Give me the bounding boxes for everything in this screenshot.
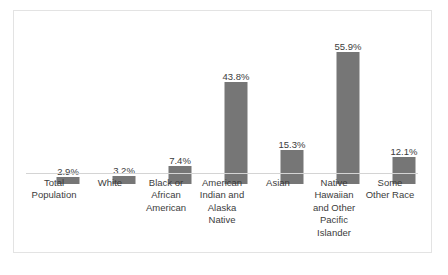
category-label-line: Islander xyxy=(306,227,362,239)
category-label-line: Total xyxy=(26,177,82,189)
bar-chart: 2.9%3.2%7.4%43.8%15.3%55.9%12.1% TotalPo… xyxy=(0,0,448,275)
bar-value-label: 12.1% xyxy=(391,146,418,157)
bar-value-label: 55.9% xyxy=(335,41,362,52)
category-label-line: Other Race xyxy=(362,189,418,201)
bar-value-label: 15.3% xyxy=(279,139,306,150)
category-label: TotalPopulation xyxy=(26,177,82,202)
bar-slot: 12.1% xyxy=(376,25,432,184)
category-label-line: Alaska xyxy=(194,202,250,214)
bar[interactable] xyxy=(225,82,248,184)
category-label-line: Population xyxy=(26,189,82,201)
category-label-line: Asian xyxy=(250,177,306,189)
category-label: Black orAfricanAmerican xyxy=(138,177,194,214)
category-label-line: Pacific xyxy=(306,214,362,226)
bar-slot: 7.4% xyxy=(152,25,208,184)
bar[interactable] xyxy=(337,52,360,184)
category-label-line: African xyxy=(138,189,194,201)
category-label-line: Some xyxy=(362,177,418,189)
bar-slot: 15.3% xyxy=(264,25,320,184)
category-label: AmericanIndian andAlaskaNative xyxy=(194,177,250,227)
category-label: NativeHawaiianand OtherPacificIslander xyxy=(306,177,362,239)
category-label: Asian xyxy=(250,177,306,189)
bar-slot: 3.2% xyxy=(96,25,152,184)
bar-value-label: 2.9% xyxy=(57,166,79,177)
bar-slot: 2.9% xyxy=(40,25,96,184)
clipped-header-text xyxy=(258,0,438,6)
category-label-line: Native xyxy=(306,177,362,189)
bar-value-label: 43.8% xyxy=(223,71,250,82)
category-label: SomeOther Race xyxy=(362,177,418,202)
bar-slot: 55.9% xyxy=(320,25,376,184)
bar-value-label: 7.4% xyxy=(169,155,191,166)
category-label-line: American xyxy=(138,202,194,214)
bars-container: 2.9%3.2%7.4%43.8%15.3%55.9%12.1% xyxy=(40,25,432,184)
category-label-line: Black or xyxy=(138,177,194,189)
category-label-line: Indian and xyxy=(194,189,250,201)
bar-value-label: 3.2% xyxy=(113,165,135,176)
category-label-line: American xyxy=(194,177,250,189)
category-label: White xyxy=(82,177,138,189)
category-label-line: and Other xyxy=(306,202,362,214)
category-label-line: Native xyxy=(194,214,250,226)
category-label-line: White xyxy=(82,177,138,189)
category-axis-line xyxy=(26,173,418,174)
category-label-line: Hawaiian xyxy=(306,189,362,201)
category-labels-row: TotalPopulationWhiteBlack orAfricanAmeri… xyxy=(26,177,418,249)
bar-slot: 43.8% xyxy=(208,25,264,184)
